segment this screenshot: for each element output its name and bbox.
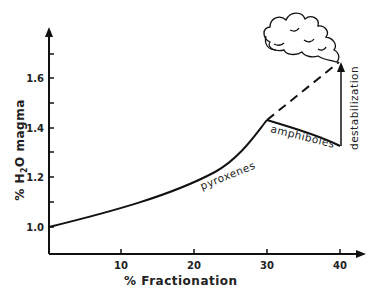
y-tick-labels: 1.0 1.2 1.4 1.6	[26, 73, 44, 233]
y-axis-arrow-icon	[45, 27, 53, 37]
projected-dashed-line	[267, 62, 339, 120]
y-axis-title: % H2O magma	[13, 99, 29, 201]
x-tick-label: 20	[187, 260, 201, 271]
y-tick-label: 1.6	[26, 73, 44, 84]
x-tick-label: 10	[114, 260, 128, 271]
x-tick-label: 40	[333, 260, 347, 271]
cloud-icon	[264, 13, 339, 62]
amphiboles-label: amphiboles	[270, 122, 337, 150]
x-axis-arrow-icon	[356, 250, 366, 258]
destabilization-label: destabilization	[348, 66, 360, 150]
x-tick-labels: 10 20 30 40	[114, 260, 347, 271]
x-axis-title: % Fractionation	[124, 274, 238, 288]
y-tick-label: 1.0	[26, 222, 44, 233]
x-tick-label: 30	[260, 260, 274, 271]
y-tick-label: 1.4	[26, 123, 44, 134]
fractionation-chart: 1.0 1.2 1.4 1.6 10 20 30 40 % Fractionat…	[0, 0, 378, 294]
